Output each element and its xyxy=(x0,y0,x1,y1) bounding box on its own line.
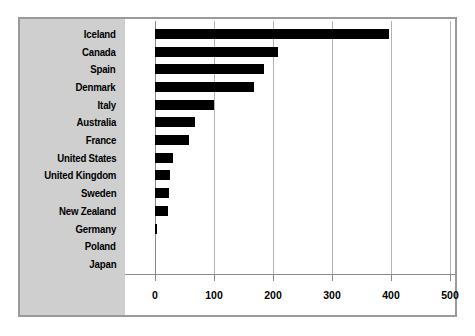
bar xyxy=(155,29,389,39)
category-row: Poland xyxy=(20,237,125,255)
x-axis-tick xyxy=(273,275,274,281)
bar xyxy=(155,224,157,234)
category-row: Sweden xyxy=(20,184,125,202)
category-label-panel: IcelandCanadaSpainDenmarkItalyAustraliaF… xyxy=(20,19,125,315)
bar-row xyxy=(125,60,455,78)
x-axis-tick-label: 400 xyxy=(382,289,400,301)
bar-row xyxy=(125,255,455,273)
category-row: New Zealand xyxy=(20,202,125,220)
bar xyxy=(155,117,195,127)
bar-row xyxy=(125,96,455,114)
category-label: Japan xyxy=(89,258,116,270)
category-label: Italy xyxy=(98,99,116,111)
bar-row xyxy=(125,25,455,43)
x-axis-tick xyxy=(450,275,451,281)
category-label: France xyxy=(85,134,116,146)
category-row: Australia xyxy=(20,114,125,132)
category-row: Germany xyxy=(20,220,125,238)
bar-row xyxy=(125,220,455,238)
category-label: Canada xyxy=(82,46,116,58)
category-label: Spain xyxy=(91,63,116,75)
category-row: United Kingdom xyxy=(20,167,125,185)
category-label: Iceland xyxy=(84,28,116,40)
bar xyxy=(155,153,173,163)
x-axis-tick-label: 100 xyxy=(205,289,223,301)
category-row: Iceland xyxy=(20,25,125,43)
plot-area: 0100200300400500 xyxy=(125,19,455,315)
bar-series xyxy=(125,25,455,273)
category-row: Denmark xyxy=(20,78,125,96)
bar xyxy=(155,100,214,110)
category-label: New Zealand xyxy=(59,205,116,217)
x-axis-tick xyxy=(155,275,156,281)
category-row: United States xyxy=(20,149,125,167)
x-axis-tick-label: 200 xyxy=(264,289,282,301)
x-axis-line xyxy=(125,274,455,275)
x-axis-tick xyxy=(214,275,215,281)
x-axis-tick xyxy=(332,275,333,281)
x-axis-tick-label: 0 xyxy=(152,289,158,301)
bar xyxy=(155,47,278,57)
category-row: Italy xyxy=(20,96,125,114)
category-label: Poland xyxy=(85,240,116,252)
category-label: Australia xyxy=(76,116,116,128)
category-label-list: IcelandCanadaSpainDenmarkItalyAustraliaF… xyxy=(20,25,125,273)
bar xyxy=(155,206,168,216)
bar-row xyxy=(125,149,455,167)
bar-row xyxy=(125,167,455,185)
bar-row xyxy=(125,202,455,220)
category-label: Sweden xyxy=(81,187,116,199)
bar xyxy=(155,64,264,74)
bar-row xyxy=(125,184,455,202)
bar-row xyxy=(125,78,455,96)
bar-row xyxy=(125,114,455,132)
category-row: France xyxy=(20,131,125,149)
category-label: United Kingdom xyxy=(44,169,116,181)
bar xyxy=(155,188,169,198)
category-label: Germany xyxy=(75,223,116,235)
category-label: Denmark xyxy=(76,81,116,93)
x-axis-tick-label: 300 xyxy=(323,289,341,301)
bar xyxy=(155,82,254,92)
category-row: Japan xyxy=(20,255,125,273)
category-row: Spain xyxy=(20,60,125,78)
bar-row xyxy=(125,131,455,149)
bar xyxy=(155,135,189,145)
bar xyxy=(155,170,170,180)
category-label: United States xyxy=(57,152,116,164)
x-axis-tick-label: 500 xyxy=(441,289,459,301)
bar-row xyxy=(125,43,455,61)
bar-chart: IcelandCanadaSpainDenmarkItalyAustraliaF… xyxy=(18,17,457,317)
category-row: Canada xyxy=(20,43,125,61)
bar-row xyxy=(125,237,455,255)
x-axis-tick xyxy=(391,275,392,281)
